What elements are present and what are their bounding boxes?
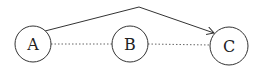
node-b-label: B	[124, 35, 136, 54]
edge-b-c	[148, 44, 210, 45]
node-c: C	[210, 27, 248, 65]
node-b: B	[112, 26, 148, 62]
node-c-label: C	[223, 37, 235, 56]
diagram-canvas: A B C	[0, 0, 262, 71]
node-a: A	[15, 26, 51, 62]
node-a-label: A	[26, 35, 39, 54]
